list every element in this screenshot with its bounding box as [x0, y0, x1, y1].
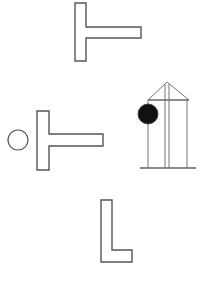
hollow-circle [8, 130, 28, 150]
top-t-shape [75, 3, 141, 61]
middle-t-shape [37, 111, 103, 170]
stand-roof-left [148, 82, 167, 100]
stand-roof-right [167, 82, 189, 100]
pendulum-ball [138, 104, 158, 124]
diagram-canvas [0, 0, 210, 308]
pendulum-stand [140, 82, 196, 168]
l-shape [101, 200, 132, 262]
